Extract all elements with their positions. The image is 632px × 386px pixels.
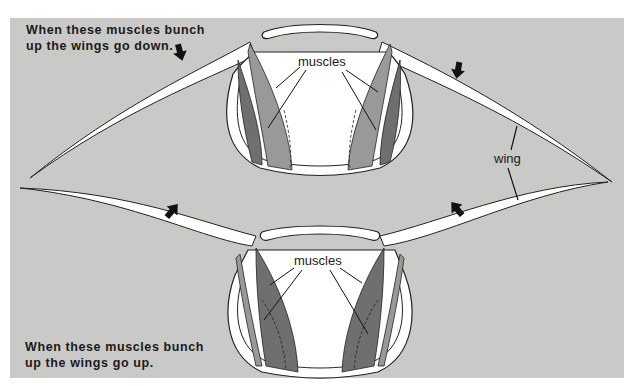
- top-caption: When these muscles bunch up the wings go…: [26, 22, 205, 54]
- top-caption-line2: up the wings go down.: [26, 38, 205, 54]
- bottom-caption: When these muscles bunch up the wings go…: [25, 339, 204, 371]
- wing-label: wing: [493, 151, 521, 166]
- bottom-caption-line2: up the wings go up.: [25, 355, 204, 371]
- top-muscles-label: muscles: [298, 54, 346, 69]
- bottom-right-wing: [380, 182, 608, 246]
- bottom-tergum-plate: [260, 226, 379, 240]
- top-left-wing: [30, 42, 255, 178]
- top-caption-line1: When these muscles bunch: [26, 22, 205, 38]
- top-tergum-plate: [262, 25, 377, 39]
- bottom-left-wing: [20, 188, 256, 246]
- bottom-caption-line1: When these muscles bunch: [25, 339, 204, 355]
- insect-wing-mechanism-diagram: muscles muscles wing: [0, 0, 632, 386]
- bottom-muscles-label: muscles: [294, 253, 342, 268]
